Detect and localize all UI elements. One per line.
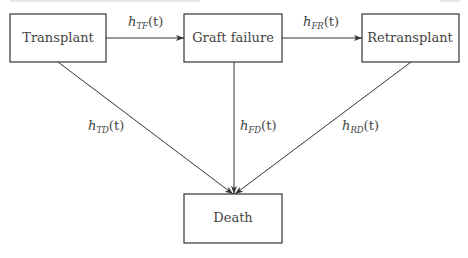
- edge-label-rd: hRD(t): [342, 118, 379, 135]
- node-graft-failure: Graft failure: [184, 14, 282, 62]
- header-remnant: [10, 0, 200, 2]
- node-retransplant: Retransplant: [362, 14, 459, 62]
- edge-label-fd: hFD(t): [240, 118, 276, 135]
- node-label: Death: [213, 210, 253, 225]
- edge-label-td: hTD(t): [88, 118, 124, 135]
- edge-label-fr: hFR(t): [303, 14, 339, 31]
- node-label: Retransplant: [367, 30, 453, 45]
- edge-label-tf: hTF(t): [128, 14, 163, 31]
- node-label: Transplant: [22, 30, 94, 45]
- node-death: Death: [184, 194, 282, 243]
- node-transplant: Transplant: [10, 14, 106, 62]
- node-label: Graft failure: [192, 30, 274, 45]
- multistate-diagram: Transplant Graft failure Retransplant De…: [0, 0, 468, 258]
- page-number-remnant: [440, 0, 460, 2]
- edge-transplant-to-death: [58, 62, 233, 194]
